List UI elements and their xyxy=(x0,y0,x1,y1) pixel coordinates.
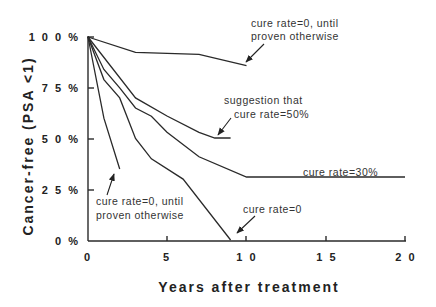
arrow-icon xyxy=(246,44,264,62)
x-axis-title: Years after treatment xyxy=(158,279,339,295)
arrow-icon xyxy=(107,174,114,195)
x-tick-label-15: 1 5 xyxy=(316,251,337,263)
curve-cure-rate-0-top xyxy=(88,37,247,66)
annotation-top-line1: cure rate=0, until xyxy=(251,17,339,29)
y-tick-label-75: 7 5 % xyxy=(42,82,80,94)
annotation-50-line2: cure rate=50% xyxy=(234,108,309,120)
annotation-bottom-line2: proven otherwise xyxy=(96,209,184,221)
annotation-zero: cure rate=0 xyxy=(237,203,302,233)
y-axis-title: Cancer-free (PSA <1) xyxy=(20,56,36,235)
annotation-bottom: cure rate=0, until proven otherwise xyxy=(96,174,184,221)
x-tick-labels: 0 5 1 0 1 5 2 0 xyxy=(84,251,417,263)
annotation-zero-label: cure rate=0 xyxy=(243,203,302,215)
annotation-50-line1: suggestion that xyxy=(224,94,303,106)
y-tick-labels: 1 0 0 % 7 5 % 5 0 % 2 5 % 0 % xyxy=(29,31,80,247)
annotation-top: cure rate=0, until proven otherwise xyxy=(246,17,339,62)
x-tick-label-5: 5 xyxy=(163,251,171,263)
annotation-50: suggestion that cure rate=50% xyxy=(218,94,309,135)
annotation-30: cure rate=30% xyxy=(303,166,378,178)
survival-chart: 1 0 0 % 7 5 % 5 0 % 2 5 % 0 % 0 5 1 0 1 … xyxy=(0,0,436,307)
annotation-bottom-line1: cure rate=0, until xyxy=(96,195,184,207)
y-tick-label-50: 5 0 % xyxy=(42,133,80,145)
x-tick-label-10: 1 0 xyxy=(236,251,257,263)
y-tick-label-0: 0 % xyxy=(55,235,80,247)
x-tick-label-0: 0 xyxy=(84,251,92,263)
x-tick-label-20: 2 0 xyxy=(395,251,416,263)
y-tick-label-100: 1 0 0 % xyxy=(29,31,80,43)
arrow-icon xyxy=(237,216,255,233)
curve-cure-rate-30 xyxy=(88,37,405,177)
y-tick-label-25: 2 5 % xyxy=(42,184,80,196)
curve-cure-rate-50 xyxy=(88,37,231,138)
annotation-top-line2: proven otherwise xyxy=(251,30,339,42)
arrow-icon xyxy=(218,118,231,135)
